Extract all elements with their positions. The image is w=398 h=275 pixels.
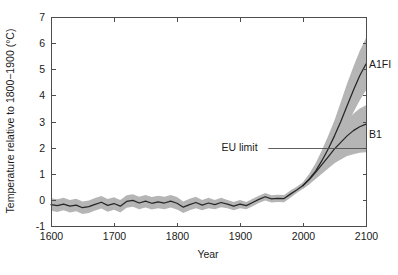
series-label-a1fi: A1FI (369, 58, 391, 70)
y-axis-tick-labels: -101234567 (36, 11, 46, 232)
x-axis-ticks (52, 18, 367, 227)
y-tick-label: 6 (39, 37, 45, 49)
x-tick-label: 2100 (355, 230, 379, 242)
x-tick-label: 1700 (103, 230, 127, 242)
data-lines (51, 64, 366, 208)
temperature-projection-chart: EU limit -101234567 16001700180019002000… (0, 0, 398, 275)
series-label-b1: B1 (369, 128, 382, 140)
y-tick-label: 2 (39, 142, 45, 154)
x-tick-label: 1600 (40, 230, 64, 242)
x-tick-label: 2000 (292, 230, 316, 242)
x-tick-label: 1800 (166, 230, 190, 242)
y-axis-title: Temperature relative to 1800−1900 (°C) (4, 29, 16, 214)
uncertainty-bands (51, 38, 366, 214)
y-tick-label: 5 (39, 63, 45, 75)
chart-canvas: EU limit -101234567 16001700180019002000… (0, 0, 398, 275)
band-reconstruction (51, 182, 303, 214)
x-axis-tick-labels: 160017001800190020002100 (40, 230, 379, 242)
y-tick-label: 1 (39, 168, 45, 180)
y-tick-label: 0 (39, 194, 45, 206)
x-axis-title: Year (197, 248, 219, 260)
x-tick-label: 1900 (229, 230, 253, 242)
y-axis-ticks (52, 18, 367, 227)
y-tick-label: 7 (39, 11, 45, 23)
y-tick-label: 3 (39, 116, 45, 128)
eu-limit-label: EU limit (221, 141, 257, 153)
plot-box (52, 18, 367, 227)
y-tick-label: 4 (39, 89, 45, 101)
axes-frame (52, 18, 367, 227)
